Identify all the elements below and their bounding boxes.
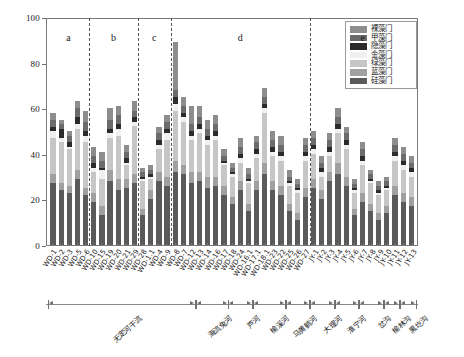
stacked-bar[interactable] <box>140 168 145 245</box>
stacked-bar[interactable] <box>238 138 243 245</box>
x-axis-tick-mark <box>240 243 241 246</box>
bar-segment <box>327 140 332 147</box>
stacked-bar[interactable] <box>181 97 186 245</box>
bar-slot <box>253 19 261 245</box>
stacked-bar[interactable] <box>221 149 226 245</box>
x-axis-tick-mark <box>166 243 167 246</box>
stacked-bar[interactable] <box>83 111 88 245</box>
bar-segment <box>230 204 235 245</box>
bar-slot <box>261 19 269 245</box>
bar-segment <box>173 161 178 172</box>
bar-segment <box>116 106 121 115</box>
stacked-bar[interactable] <box>50 113 55 245</box>
stacked-bar[interactable] <box>230 163 235 245</box>
x-axis-tick-mark <box>387 243 388 246</box>
bar-segment <box>189 140 194 172</box>
x-axis-tick-mark <box>93 243 94 246</box>
stacked-bar[interactable] <box>132 101 137 245</box>
river-group-arrow-right <box>378 301 382 305</box>
bar-segment <box>213 115 218 124</box>
stacked-bar[interactable] <box>262 88 267 245</box>
stacked-bar[interactable] <box>287 170 292 245</box>
stacked-bar[interactable] <box>335 108 340 245</box>
stacked-bar[interactable] <box>205 120 210 245</box>
bar-slot <box>171 19 179 245</box>
stacked-bar[interactable] <box>99 152 104 245</box>
river-group-arrow-right <box>394 301 398 305</box>
x-tick: WD-29 <box>130 246 138 298</box>
bar-segment <box>270 156 275 181</box>
legend-item[interactable]: 硅藻门 <box>350 77 413 86</box>
stacked-bar[interactable] <box>173 42 178 245</box>
bar-segment <box>116 136 121 179</box>
x-axis-tick-mark <box>289 243 290 246</box>
stacked-bar[interactable] <box>384 177 389 245</box>
stacked-bar[interactable] <box>360 142 365 245</box>
stacked-bar[interactable] <box>303 138 308 245</box>
stacked-bar[interactable] <box>254 136 259 245</box>
stacked-bar[interactable] <box>213 115 218 245</box>
bar-segment <box>254 181 259 190</box>
bar-segment <box>181 165 186 174</box>
bar-segment <box>124 188 129 245</box>
bar-segment <box>59 190 64 245</box>
bar-slot <box>310 19 318 245</box>
stacked-bar[interactable] <box>368 170 373 245</box>
bar-segment <box>189 124 194 131</box>
stacked-bar[interactable] <box>91 147 96 245</box>
stacked-bar[interactable] <box>327 133 332 245</box>
stacked-bar[interactable] <box>67 131 72 245</box>
stacked-bar[interactable] <box>148 165 153 245</box>
bar-segment <box>230 197 235 204</box>
y-axis-tick-label: 40 <box>31 150 40 160</box>
bar-segment <box>197 133 202 172</box>
bar-segment <box>319 156 324 163</box>
stacked-bar[interactable] <box>75 101 80 245</box>
x-axis-tick-mark <box>158 243 159 246</box>
bar-segment <box>213 124 218 131</box>
stacked-bar[interactable] <box>319 156 324 245</box>
bar-segment <box>278 195 283 245</box>
stacked-bar[interactable] <box>352 179 357 245</box>
stacked-bar[interactable] <box>189 106 194 245</box>
x-tick: WD-7 <box>179 246 187 298</box>
bar-segment <box>140 209 145 216</box>
stacked-bar[interactable] <box>164 115 169 245</box>
x-tick: JY-13 <box>408 246 416 298</box>
x-tick: WD-22 <box>277 246 285 298</box>
x-axis-tick-mark <box>109 243 110 246</box>
stacked-bar[interactable] <box>392 138 397 245</box>
stacked-bar[interactable] <box>376 181 381 245</box>
bar-segment <box>409 197 414 206</box>
bar-segment <box>319 190 324 199</box>
bar-segment <box>392 186 397 195</box>
bar-segment <box>327 181 332 245</box>
stacked-bar[interactable] <box>107 108 112 245</box>
bar-segment <box>303 188 308 197</box>
bar-segment <box>221 195 226 245</box>
river-group-label: 淮宁河 <box>345 313 368 335</box>
stacked-bar[interactable] <box>116 106 121 245</box>
bar-slot <box>293 19 301 245</box>
x-axis-tick-mark <box>338 243 339 246</box>
stacked-bar[interactable] <box>156 127 161 245</box>
group-letter: c <box>152 32 156 43</box>
stacked-bar[interactable] <box>124 145 129 245</box>
bar-segment <box>67 186 72 193</box>
bar-segment <box>221 165 226 186</box>
stacked-bar[interactable] <box>401 147 406 245</box>
stacked-bar[interactable] <box>246 168 251 245</box>
stacked-bar[interactable] <box>311 131 316 245</box>
river-group-label: 无定河干流 <box>110 313 143 345</box>
bar-segment <box>107 120 112 129</box>
stacked-bar[interactable] <box>197 106 202 245</box>
x-axis-tick-mark <box>265 243 266 246</box>
bar-segment <box>311 188 316 245</box>
stacked-bar[interactable] <box>59 120 64 245</box>
stacked-bar[interactable] <box>409 156 414 245</box>
stacked-bar[interactable] <box>278 136 283 245</box>
stacked-bar[interactable] <box>295 179 300 245</box>
stacked-bar[interactable] <box>344 127 349 245</box>
bar-segment <box>75 129 80 170</box>
stacked-bar[interactable] <box>270 131 275 245</box>
